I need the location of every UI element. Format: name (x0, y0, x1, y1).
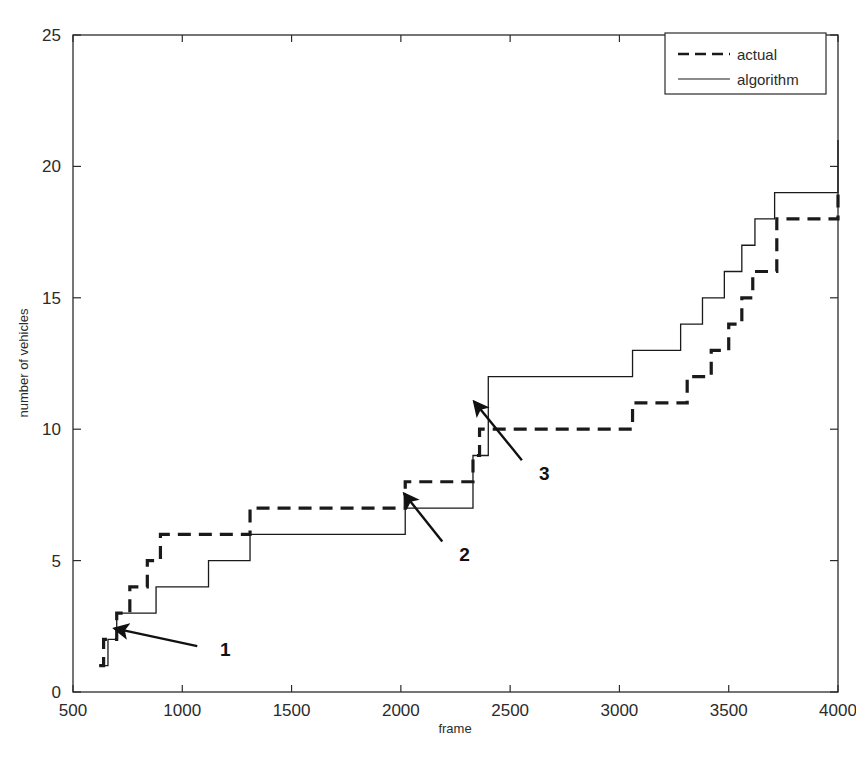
x-tick-label: 3500 (710, 701, 748, 720)
annotation-label-3: 3 (539, 463, 550, 484)
x-tick-label: 2000 (382, 701, 420, 720)
y-tick-label: 10 (42, 420, 61, 439)
x-tick-label: 2500 (491, 701, 529, 720)
y-tick-label: 5 (52, 552, 61, 571)
annotation-label-2: 2 (459, 544, 470, 565)
y-tick-label: 25 (42, 26, 61, 45)
y-tick-label: 15 (42, 289, 61, 308)
legend-label-algorithm: algorithm (737, 71, 799, 88)
y-tick-label: 0 (52, 683, 61, 702)
x-tick-label: 3000 (601, 701, 639, 720)
x-tick-label: 1500 (273, 701, 311, 720)
x-tick-label: 1000 (163, 701, 201, 720)
chart-background (0, 0, 856, 765)
y-axis-title: number of vehicles (16, 308, 31, 418)
x-axis-title: frame (438, 721, 471, 736)
vehicle-count-step-chart: 5001000150020002500300035004000 05101520… (0, 0, 856, 765)
x-tick-label: 500 (59, 701, 87, 720)
y-tick-label: 20 (42, 157, 61, 176)
x-tick-label: 4000 (819, 701, 856, 720)
chart-legend[interactable]: actual algorithm (665, 33, 826, 94)
annotation-label-1: 1 (220, 639, 231, 660)
figure-container: 5001000150020002500300035004000 05101520… (0, 0, 856, 765)
legend-label-actual: actual (737, 46, 777, 63)
